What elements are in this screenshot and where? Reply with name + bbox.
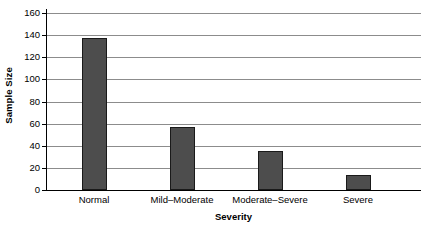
y-axis-tick-mark [42,79,47,80]
y-axis-tick-label: 160 [14,8,40,18]
x-axis-tick-label: Moderate–Severe [232,195,308,205]
x-axis-tick-label: Normal [79,195,110,205]
x-axis-title: Severity [46,212,421,222]
x-axis-tick-label: Severe [343,195,373,205]
bar-normal[interactable] [82,38,107,190]
y-axis-tick-mark [42,168,47,169]
y-axis-tick-mark [42,102,47,103]
gridline [46,35,421,36]
y-axis-tick-mark [42,146,47,147]
y-axis-tick-label: 40 [14,141,40,151]
bar-mild-moderate[interactable] [170,127,195,190]
x-axis-tick-label: Mild–Moderate [151,195,214,205]
y-axis-tick-label: 60 [14,119,40,129]
bar-chart-figure: Sample Size 020406080100120140160 Normal… [0,0,421,229]
y-axis-tick-label: 0 [14,185,40,195]
y-axis-tick-label: 100 [14,75,40,85]
bar-severe[interactable] [346,175,371,190]
y-axis-tick-mark [42,13,47,14]
y-axis-tick-label: 140 [14,30,40,40]
y-axis-tick-labels: 020406080100120140160 [10,0,40,229]
bar-moderate-severe[interactable] [258,151,283,190]
plot-area [46,13,421,190]
y-axis-tick-mark [42,190,47,191]
x-axis-tick-labels: NormalMild–ModerateModerate–SevereSevere [46,195,421,209]
gridline [46,13,421,14]
x-axis-baseline [46,190,421,191]
y-axis-tick-label: 80 [14,97,40,107]
y-axis-tick-label: 120 [14,53,40,63]
y-axis-tick-mark [42,57,47,58]
y-axis-tick-mark [42,124,47,125]
y-axis-tick-mark [42,35,47,36]
y-axis-tick-label: 20 [14,163,40,173]
